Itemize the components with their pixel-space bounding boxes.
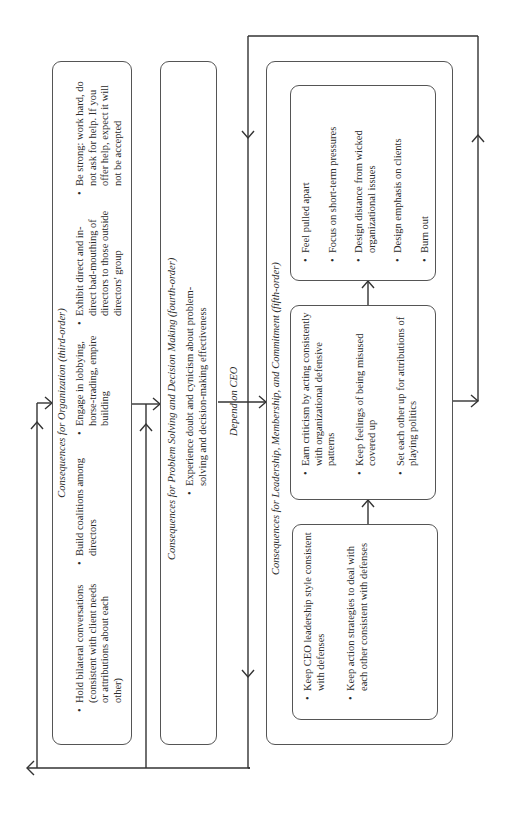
- list-item: Design distance from wicked organization…: [353, 92, 378, 262]
- third-order-title: Consequences for Organization (third-ord…: [56, 61, 67, 745]
- third-order-col5: Be strong: work hard, do not ask for hel…: [74, 80, 124, 195]
- list-item: Exhibit direct and in-direct bad-mouthin…: [74, 210, 124, 325]
- list-item: Burn out: [419, 92, 432, 262]
- fourth-order-list: Experience doubt and cynicism about prob…: [184, 285, 209, 495]
- third-order-col1: Hold bilateral conversations (consistent…: [74, 582, 124, 712]
- connector-label: Depend on CEO: [228, 367, 239, 436]
- box-a-list: Keep CEO leadership style consistent wit…: [302, 530, 370, 700]
- list-item: Earn criticism by acting consistently wi…: [300, 310, 338, 475]
- list-item: Design emphasis on clients: [392, 92, 405, 262]
- third-order-col2: Build coalitions among directors: [74, 455, 99, 565]
- list-item: Keep feelings of being misused covered u…: [354, 310, 379, 475]
- list-item: Engage in lobbying, horse-trading, empir…: [74, 325, 112, 435]
- box-c-list: Feel pulled apart Focus on short-term pr…: [300, 92, 431, 262]
- third-order-col4: Exhibit direct and in-direct bad-mouthin…: [74, 210, 124, 325]
- box-b-list: Earn criticism by acting consistently wi…: [300, 310, 420, 475]
- list-item: Hold bilateral conversations (consistent…: [74, 582, 124, 712]
- list-item: Set each other up for attributions of pl…: [395, 310, 420, 475]
- list-item: Experience doubt and cynicism about prob…: [184, 285, 209, 495]
- list-item: Feel pulled apart: [300, 92, 313, 262]
- list-item: Keep CEO leadership style consistent wit…: [302, 530, 327, 700]
- list-item: Be strong: work hard, do not ask for hel…: [74, 80, 124, 195]
- list-item: Build coalitions among directors: [74, 455, 99, 565]
- fourth-order-title: Consequences for Problem Solving and Dec…: [166, 230, 177, 560]
- list-item: Keep action strategies to deal with each…: [345, 530, 370, 700]
- fifth-order-title: Consequences for Leadership, Membership,…: [270, 61, 281, 745]
- list-item: Focus on short-term pressures: [327, 92, 340, 262]
- third-order-col3: Engage in lobbying, horse-trading, empir…: [74, 325, 112, 435]
